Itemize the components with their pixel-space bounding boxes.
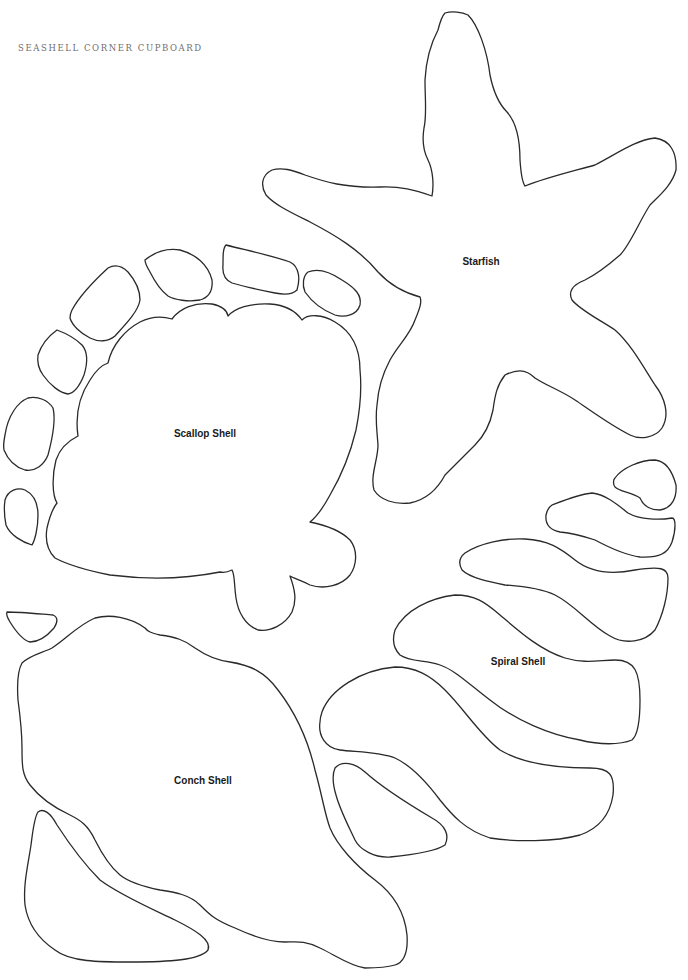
scallop-piece-5 (145, 249, 212, 300)
scallop-piece-3 (38, 330, 87, 394)
spiral-piece-1 (614, 460, 677, 510)
conch-piece-2 (25, 811, 209, 962)
spiral-piece-3 (460, 539, 668, 641)
spiral-piece-2 (546, 493, 675, 557)
starfish-label: Starfish (462, 256, 499, 267)
spiral-shell-outline (393, 595, 640, 744)
scallop-piece-7 (303, 270, 360, 316)
spiral-shell-label: Spiral Shell (491, 656, 545, 667)
scallop-piece-8 (7, 612, 57, 642)
conch-shell-outline (18, 616, 408, 968)
scallop-piece-2 (4, 397, 54, 470)
template-page: SEASHELL CORNER CUPBOARD Starfish Scallo… (0, 0, 688, 980)
scallop-shell-outline (46, 304, 361, 631)
spiral-piece-6 (333, 763, 447, 857)
scallop-shell-label: Scallop Shell (174, 428, 236, 439)
spiral-piece-5 (320, 667, 614, 841)
conch-shell-label: Conch Shell (174, 775, 232, 786)
template-outlines (0, 0, 688, 980)
scallop-piece-1 (4, 489, 38, 545)
scallop-piece-6 (223, 245, 299, 294)
